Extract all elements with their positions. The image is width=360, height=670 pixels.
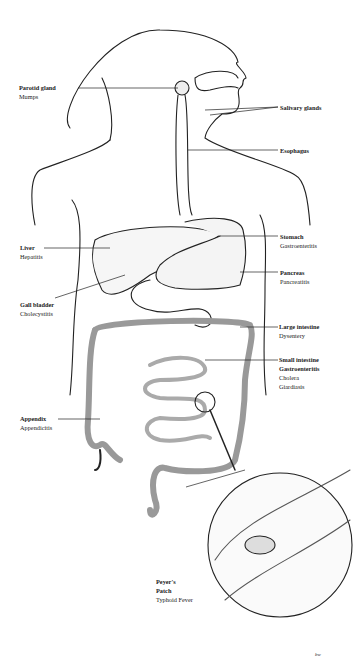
label-small-intestine: Small intestine Gastroenteritis Cholera … bbox=[279, 355, 319, 391]
disease-name: Cholera bbox=[279, 373, 319, 382]
disease-name: Cholecystitis bbox=[20, 309, 54, 318]
label-parotid-gland: Parotid gland Mumps bbox=[19, 83, 56, 101]
artist-signature: bw bbox=[315, 650, 321, 659]
organ-name: Pancreas bbox=[280, 268, 309, 277]
small-intestine-shape bbox=[145, 358, 210, 441]
organ-name: Liver bbox=[20, 243, 43, 252]
organ-name: Appendix bbox=[20, 414, 52, 423]
organ-name: Esophagus bbox=[280, 146, 309, 155]
label-salivary-glands: Salivary glands bbox=[280, 103, 321, 112]
label-gall-bladder: Gall bladder Cholecystitis bbox=[20, 300, 54, 318]
organ-name: Gall bladder bbox=[20, 300, 54, 309]
organ-name: Large intestine bbox=[279, 322, 319, 331]
label-esophagus: Esophagus bbox=[280, 146, 309, 155]
disease-name: Gastroenteritis bbox=[280, 241, 317, 250]
disease-name: Dysentery bbox=[279, 331, 319, 340]
organ-name: Peyer's Patch bbox=[156, 577, 186, 595]
disease-name: Pancreatitis bbox=[280, 277, 309, 286]
disease-name: Hepatitis bbox=[20, 252, 43, 261]
label-liver: Liver Hepatitis bbox=[20, 243, 43, 261]
disease-name: Appendicitis bbox=[20, 423, 52, 432]
disease-name: Typhoid Fever bbox=[156, 595, 193, 604]
body-outline bbox=[32, 30, 310, 225]
disease-name: Gastroenteritis bbox=[279, 364, 319, 373]
label-peyers-patch: Peyer's Patch Typhoid Fever bbox=[156, 577, 193, 604]
organ-name: Salivary glands bbox=[280, 103, 321, 112]
organ-name: Parotid gland bbox=[19, 83, 56, 92]
label-large-intestine: Large intestine Dysentery bbox=[279, 322, 319, 340]
peyers-patch-magnified-circle bbox=[208, 473, 352, 617]
organ-name: Stomach bbox=[280, 232, 317, 241]
label-pancreas: Pancreas Pancreatitis bbox=[280, 268, 309, 286]
label-stomach: Stomach Gastroenteritis bbox=[280, 232, 317, 250]
organ-name: Small intestine bbox=[279, 355, 319, 364]
disease-name: Giardiasis bbox=[279, 382, 319, 391]
label-appendix: Appendix Appendicitis bbox=[20, 414, 52, 432]
disease-name: Mumps bbox=[19, 92, 56, 101]
